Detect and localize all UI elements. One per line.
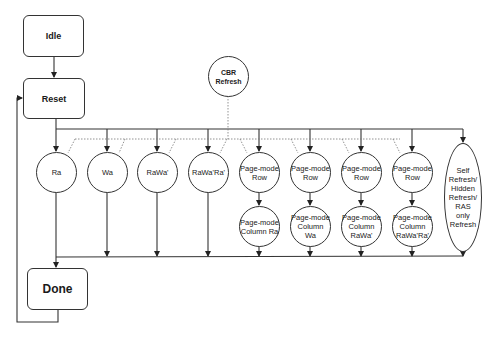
state-done: Done bbox=[27, 268, 88, 310]
state-wa-label: Wa bbox=[102, 168, 113, 177]
state-page-mode-row-2-label: Page-mode Row bbox=[291, 164, 330, 182]
state-page-mode-row-3: Page-mode Row bbox=[341, 152, 382, 193]
state-page-mode-column-ra-label: Page-mode Column Ra bbox=[240, 218, 279, 236]
state-page-mode-row-3-label: Page-mode Row bbox=[342, 164, 381, 182]
state-idle-label: Idle bbox=[46, 31, 62, 41]
state-self-refresh: Self Refresh/ Hidden Refresh/ RAS only R… bbox=[444, 143, 482, 252]
state-page-mode-row-1: Page-mode Row bbox=[239, 152, 280, 193]
state-wa: Wa bbox=[87, 152, 128, 193]
state-page-mode-column-rawa: Page-mode Column RaWa' bbox=[341, 206, 382, 247]
state-diagram: Idle Reset Done CBR Refresh Ra Wa RaWa' … bbox=[0, 0, 492, 337]
state-page-mode-column-wa-label: Page-mode Column Wa bbox=[291, 213, 330, 240]
state-rawa: RaWa' bbox=[137, 152, 178, 193]
state-rawara: RaWa'Ra' bbox=[188, 152, 229, 193]
state-rawa-label: RaWa' bbox=[147, 168, 169, 177]
state-done-label: Done bbox=[43, 282, 73, 296]
state-page-mode-row-4-label: Page-mode Row bbox=[393, 164, 432, 182]
state-page-mode-column-rawara-label: Page-mode Column RaWa'Ra' bbox=[393, 213, 432, 240]
state-cbr-refresh-label: CBR Refresh bbox=[215, 68, 241, 86]
state-idle: Idle bbox=[23, 15, 84, 57]
state-cbr-refresh: CBR Refresh bbox=[208, 56, 249, 97]
state-rawara-label: RaWa'Ra' bbox=[192, 168, 225, 177]
state-page-mode-column-rawara: Page-mode Column RaWa'Ra' bbox=[392, 206, 433, 247]
state-ra: Ra bbox=[36, 152, 77, 193]
state-page-mode-column-rawa-label: Page-mode Column RaWa' bbox=[342, 213, 381, 240]
state-page-mode-row-4: Page-mode Row bbox=[392, 152, 433, 193]
state-self-refresh-label: Self Refresh/ Hidden Refresh/ RAS only R… bbox=[449, 166, 477, 229]
state-page-mode-column-ra: Page-mode Column Ra bbox=[239, 206, 280, 247]
state-page-mode-row-1-label: Page-mode Row bbox=[240, 164, 279, 182]
state-reset-label: Reset bbox=[42, 94, 67, 104]
state-ra-label: Ra bbox=[52, 168, 62, 177]
state-page-mode-row-2: Page-mode Row bbox=[290, 152, 331, 193]
state-page-mode-column-wa: Page-mode Column Wa bbox=[290, 206, 331, 247]
state-reset: Reset bbox=[23, 78, 85, 119]
